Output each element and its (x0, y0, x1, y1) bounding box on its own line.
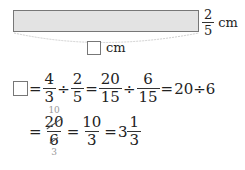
cancelled-fraction: 10 20 6 3 (43, 106, 66, 157)
fraction: 2 5 (71, 72, 85, 105)
cancel-note: 3 (51, 148, 57, 157)
answer-blank-box (87, 41, 101, 55)
side-length-label: 2 5 cm (202, 8, 238, 37)
fraction: 1 3 (127, 115, 141, 148)
equation-line-2: = 10 20 6 3 = 10 3 = 3 1 3 (28, 106, 141, 157)
unknown-length-label: cm (87, 40, 126, 55)
answer-blank-box (13, 81, 28, 96)
fraction: 10 3 (80, 115, 103, 148)
side-length-fraction: 2 5 (202, 8, 214, 37)
mixed-number-whole: 3 (118, 123, 128, 141)
equation-line-1: = 4 3 ÷ 2 5 = 20 15 ÷ 6 15 = 20÷6 (13, 72, 215, 105)
fraction: 6 15 (137, 72, 160, 105)
fraction: 20 15 (99, 72, 122, 105)
fraction: 4 3 (43, 72, 57, 105)
unit-label: cm (218, 15, 238, 30)
unit-label: cm (106, 40, 126, 55)
